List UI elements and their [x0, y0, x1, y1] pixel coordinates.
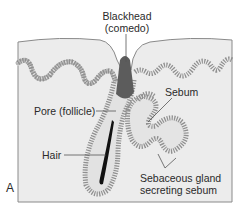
label-sebum: Sebum: [165, 86, 198, 98]
panel-label: A: [6, 182, 14, 194]
label-sebaceous-gland: Sebaceous gland secreting sebum: [140, 172, 221, 196]
label-pore: Pore (follicle): [34, 105, 95, 117]
label-hair: Hair: [42, 149, 61, 161]
label-blackhead: Blackhead (comedo): [96, 10, 158, 34]
